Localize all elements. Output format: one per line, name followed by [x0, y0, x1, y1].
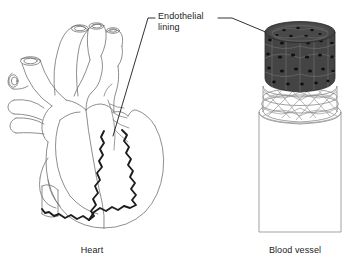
- caption-heart: Heart: [52, 245, 132, 255]
- figure-illustration: [0, 0, 355, 273]
- aorta: [54, 25, 89, 96]
- label-endothelial-lining: Endothelial lining: [158, 11, 220, 33]
- heart-illustration: [8, 23, 164, 228]
- pulmonary-veins: [8, 100, 44, 134]
- pulmonary-trunk: [87, 23, 106, 60]
- vessel-outer-wall: [259, 112, 341, 232]
- heart-endothelial-lining: [42, 130, 136, 220]
- caption-blood-vessel: Blood vessel: [248, 245, 342, 255]
- anatomy-figure: Endothelial lining Heart Blood vessel: [0, 0, 355, 273]
- leader-lines: [113, 18, 268, 136]
- leader-line-vessel: [218, 18, 268, 33]
- superior-vena-cava: [21, 57, 67, 106]
- pulmonary-artery-branch: [106, 28, 123, 66]
- vena-cava-branch: [8, 73, 28, 89]
- vessel-endothelial-layer: [265, 22, 335, 93]
- heart-apex: [40, 158, 61, 208]
- blood-vessel-illustration: [259, 22, 341, 233]
